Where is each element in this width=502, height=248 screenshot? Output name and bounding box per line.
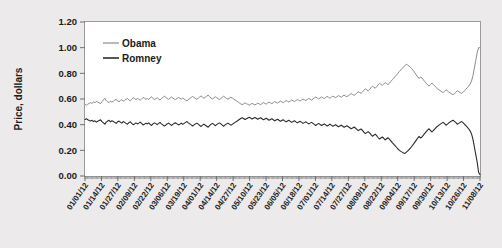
legend-label-romney: Romney (122, 53, 162, 64)
y-tick-label: 0.60 (59, 93, 78, 104)
y-tick-label: 0.80 (59, 68, 78, 79)
price-line-chart: 0.000.200.400.600.801.001.20 Price, doll… (0, 0, 502, 248)
legend-label-obama: Obama (122, 38, 156, 49)
chart-container: 0.000.200.400.600.801.001.20 Price, doll… (0, 0, 502, 248)
y-tick-label: 0.00 (59, 170, 78, 181)
y-tick-label: 0.40 (59, 119, 78, 130)
y-tick-label: 1.20 (59, 16, 78, 27)
y-tick-label: 1.00 (59, 42, 78, 53)
y-axis-title: Price, dollars (13, 67, 24, 130)
y-tick-label: 0.20 (59, 145, 78, 156)
